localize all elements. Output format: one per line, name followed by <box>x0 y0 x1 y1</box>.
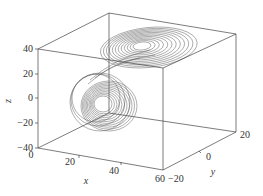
z-axis-ticks <box>35 49 38 148</box>
chart-3d-plot: 40200−20−40 0204060 −20020 z x y <box>0 0 263 196</box>
y-tick-label: −20 <box>168 173 184 184</box>
x-tick-label: 40 <box>109 165 119 176</box>
y-axis-ticks <box>199 151 201 153</box>
x-tick-label: 20 <box>65 156 75 167</box>
x-tick-label: 0 <box>29 149 34 160</box>
y-tick-label: 0 <box>206 151 211 162</box>
z-tick-label: 40 <box>23 43 33 54</box>
y-tick-label: 20 <box>240 129 250 140</box>
y-axis-label: y <box>210 166 216 177</box>
attractor-trajectory <box>70 23 199 131</box>
x-tick-label: 60 <box>155 173 165 184</box>
x-axis-label: x <box>83 175 89 186</box>
box-back-edges <box>38 13 236 148</box>
z-tick-label: −20 <box>17 117 33 128</box>
z-tick-labels: 40200−20−40 <box>17 43 33 153</box>
z-tick-label: 20 <box>23 68 33 79</box>
z-tick-label: 0 <box>28 92 33 103</box>
y-tick-labels: −20020 <box>168 129 250 184</box>
z-axis-label: z <box>2 99 13 104</box>
